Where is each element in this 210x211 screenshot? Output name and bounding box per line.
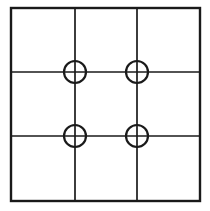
diagram-background xyxy=(0,0,210,211)
diagram-canvas xyxy=(0,0,210,211)
grid-diagram xyxy=(0,0,210,211)
